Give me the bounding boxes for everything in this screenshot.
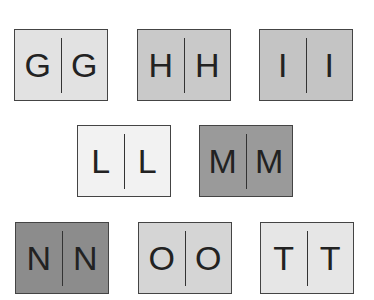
letter-tile-i: I I (259, 29, 353, 101)
letter-tile-t: T T (260, 222, 354, 294)
tile-right-letter: T (308, 223, 354, 293)
letter-tile-l: L L (77, 125, 171, 197)
tile-left-letter: N (16, 223, 62, 293)
tile-left-letter: T (261, 223, 307, 293)
tile-left-letter: O (139, 223, 185, 293)
letter-tile-g: G G (14, 29, 108, 101)
tile-right-letter: M (247, 126, 293, 196)
tile-left-letter: L (78, 126, 124, 196)
letter-tile-m: M M (199, 125, 293, 197)
tile-left-letter: H (138, 30, 184, 100)
tile-right-letter: O (186, 223, 232, 293)
tile-left-letter: I (260, 30, 306, 100)
tile-left-letter: M (200, 126, 246, 196)
tile-right-letter: G (62, 30, 108, 100)
tile-left-letter: G (15, 30, 61, 100)
tile-right-letter: I (307, 30, 353, 100)
tile-right-letter: L (125, 126, 171, 196)
letter-tile-o: O O (138, 222, 232, 294)
letter-tile-h: H H (137, 29, 231, 101)
tile-right-letter: H (185, 30, 231, 100)
letter-tile-n: N N (15, 222, 109, 294)
tile-right-letter: N (63, 223, 109, 293)
